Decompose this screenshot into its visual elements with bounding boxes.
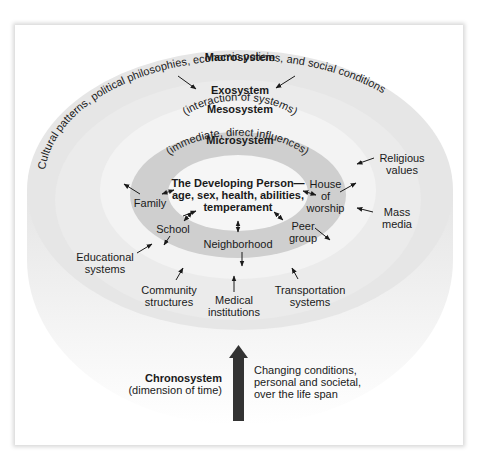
peer-line: Peer xyxy=(283,220,323,232)
mass-media-label: Mass media xyxy=(372,206,422,230)
systems-line: systems xyxy=(72,263,138,275)
center-line-1: The Developing Person— xyxy=(168,177,308,189)
center-line-2: age, sex, health, abilities, xyxy=(168,189,308,201)
religious-values-label: Religious values xyxy=(372,152,432,176)
peer-group-label: Peer group xyxy=(283,220,323,244)
educational-systems-label: Educational systems xyxy=(72,251,138,275)
transportation-line: Transportation xyxy=(270,284,350,296)
medical-institutions-label: Medical institutions xyxy=(202,294,266,318)
group-line: group xyxy=(283,232,323,244)
of-line: of xyxy=(303,190,348,202)
house-of-worship-label: House of worship xyxy=(303,178,348,214)
values-line: values xyxy=(372,164,432,176)
mesosystem-title: Mesosystem xyxy=(195,103,285,115)
chrono-line-1: Changing conditions, xyxy=(254,364,374,376)
mass-line: Mass xyxy=(372,206,422,218)
chronosystem-label: Chronosystem (dimension of time) xyxy=(120,372,222,396)
transport-systems-line: systems xyxy=(270,296,350,308)
religious-line: Religious xyxy=(372,152,432,164)
institutions-line: institutions xyxy=(202,306,266,318)
transportation-systems-label: Transportation systems xyxy=(270,284,350,308)
educational-line: Educational xyxy=(72,251,138,263)
center-line-3: temperament xyxy=(168,201,308,213)
worship-line: worship xyxy=(303,202,348,214)
neighborhood-label: Neighborhood xyxy=(198,238,278,250)
community-structures-label: Community structures xyxy=(136,284,202,308)
chronosystem-title: Chronosystem xyxy=(120,372,222,384)
house-line: House xyxy=(303,178,348,190)
macrosystem-title: Macrosystem xyxy=(200,51,280,63)
microsystem-title: Microsystem xyxy=(195,134,285,146)
developing-person-label: The Developing Person— age, sex, health,… xyxy=(168,177,308,213)
structures-line: structures xyxy=(136,296,202,308)
school-label: School xyxy=(153,223,193,235)
chrono-line-2: personal and societal, xyxy=(254,376,374,388)
family-label: Family xyxy=(130,197,170,209)
community-line: Community xyxy=(136,284,202,296)
chrono-line-3: over the life span xyxy=(254,388,374,400)
chronosystem-description: Changing conditions, personal and societ… xyxy=(254,364,374,400)
media-line: media xyxy=(372,218,422,230)
chronosystem-subtitle: (dimension of time) xyxy=(120,384,222,396)
medical-line: Medical xyxy=(202,294,266,306)
exosystem-title: Exosystem xyxy=(200,84,280,96)
